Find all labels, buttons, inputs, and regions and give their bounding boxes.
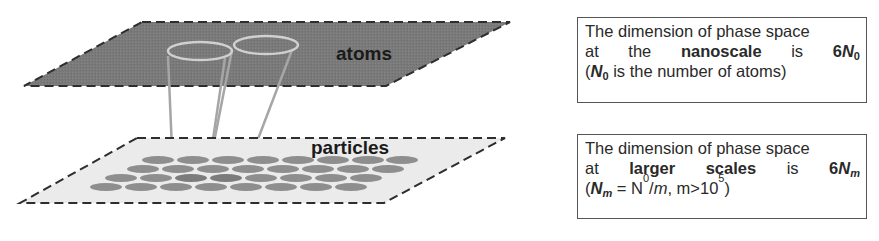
box-top-line-3: (N0 is the number of atoms) <box>585 61 860 81</box>
value-6N0: 6N0 <box>833 41 860 61</box>
text: = N <box>612 178 643 198</box>
word: the <box>628 41 651 61</box>
var-m: m <box>654 178 668 198</box>
keyword-larger: larger <box>629 158 675 178</box>
keyword-scales: scales <box>706 158 756 178</box>
text: is the number of atoms) <box>609 61 787 81</box>
word: is <box>787 158 799 178</box>
text: , m>10 <box>667 178 718 198</box>
word: is <box>791 41 803 61</box>
sub: m <box>602 187 612 199</box>
var-N: N <box>591 179 603 197</box>
box-top-line-1: The dimension of phase space <box>585 21 860 41</box>
box-top-line-2: at the nanoscale is 6N0 <box>585 41 860 61</box>
var-N: N <box>591 62 603 80</box>
word: at <box>585 41 599 61</box>
nanoscale-description-box: The dimension of phase space at the nano… <box>577 17 867 103</box>
box-bottom-line-1: The dimension of phase space <box>585 138 860 158</box>
keyword-nanoscale: nanoscale <box>681 41 762 61</box>
box-bottom-line-3: (Nm = N0/m, m>105) <box>585 178 860 198</box>
text: The dimension of phase space <box>585 138 810 158</box>
value-6Nm: 6Nm <box>829 158 860 178</box>
text: The dimension of phase space <box>585 21 810 41</box>
atoms-label: atoms <box>336 43 392 64</box>
text: ) <box>724 178 730 198</box>
word: at <box>585 158 599 178</box>
larger-scales-description-box: The dimension of phase space at larger s… <box>577 134 867 219</box>
particles-label: particles <box>311 137 389 158</box>
